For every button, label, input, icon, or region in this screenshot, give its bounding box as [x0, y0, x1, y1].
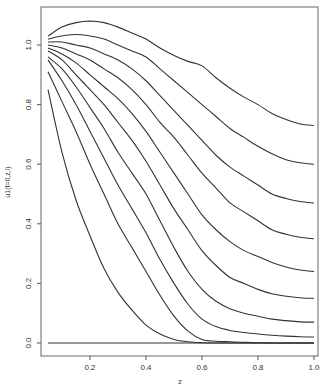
y-tick-label: 0.6: [24, 158, 33, 170]
y-axis: 0.00.20.40.60.81.0: [24, 39, 41, 349]
x-tick-label: 0.2: [84, 363, 96, 372]
x-axis: 0.20.40.60.81.0: [84, 356, 320, 372]
series-line-curve-9: [48, 72, 314, 343]
y-tick-label: 1.0: [24, 39, 33, 51]
line-chart: 0.20.40.60.81.0 0.00.20.40.60.81.0 z u1(…: [0, 0, 331, 389]
x-tick-label: 0.8: [252, 363, 264, 372]
series-line-curve-8: [48, 60, 314, 337]
y-tick-label: 0.4: [24, 218, 33, 230]
series-line-curve-6: [48, 51, 314, 298]
x-tick-label: 0.6: [196, 363, 208, 372]
x-tick-label: 1.0: [308, 363, 320, 372]
series-line-curve-7: [48, 57, 314, 322]
y-tick-label: 0.2: [24, 277, 33, 289]
series-line-curve-4: [48, 45, 314, 239]
x-tick-label: 0.4: [140, 363, 152, 372]
y-axis-label: u1(t=0,z,i): [4, 166, 12, 197]
series-group: [48, 21, 314, 343]
y-tick-label: 0.8: [24, 98, 33, 110]
series-line-curve-2: [48, 35, 314, 165]
y-tick-label: 0.0: [24, 337, 33, 349]
series-line-curve-3: [48, 42, 314, 203]
x-axis-label: z: [178, 378, 182, 385]
